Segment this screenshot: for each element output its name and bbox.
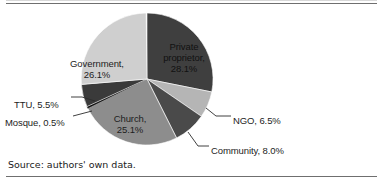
pie-label-church-line1: Church, — [114, 113, 147, 124]
pie-label-ttu: TTU, 5.5% — [14, 99, 59, 110]
pie-label-church-line2: 25.1% — [117, 124, 143, 135]
figure-top-rule — [6, 3, 377, 4]
figure-top-hairline — [6, 0, 377, 1]
pie-chart-svg — [0, 5, 383, 152]
pie-label-government-line1: Government, — [70, 58, 124, 69]
pie-label-private-proprietor-line2: proprietor, — [163, 52, 205, 63]
leader-line-mosque — [73, 111, 92, 116]
figure-bottom-rule — [6, 176, 377, 177]
figure-panel: Government, 26.1% Private proprietor, 28… — [0, 0, 383, 184]
pie-label-ngo: NGO, 6.5% — [233, 115, 281, 126]
pie-label-government: Government, 26.1% — [60, 58, 134, 80]
pie-label-private-proprietor: Private proprietor, 28.1% — [155, 41, 213, 74]
pie-label-mosque: Mosque, 0.5% — [5, 117, 65, 128]
pie-label-community: Community, 8.0% — [211, 145, 284, 156]
source-note: Source: authors' own data. — [8, 159, 136, 170]
pie-label-government-line2: 26.1% — [84, 69, 110, 80]
leader-line-ngo — [206, 108, 231, 116]
leader-line-community — [188, 132, 209, 146]
pie-label-private-proprietor-line3: 28.1% — [171, 63, 197, 74]
pie-chart: Government, 26.1% Private proprietor, 28… — [0, 5, 383, 152]
pie-label-private-proprietor-line1: Private — [170, 41, 199, 52]
pie-label-church: Church, 25.1% — [104, 113, 156, 135]
